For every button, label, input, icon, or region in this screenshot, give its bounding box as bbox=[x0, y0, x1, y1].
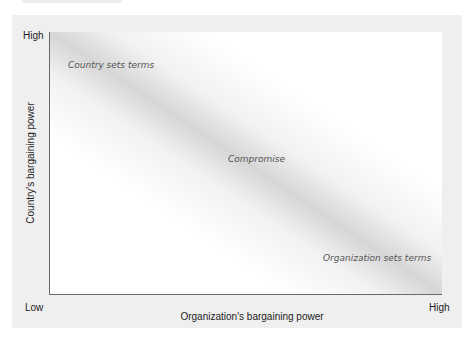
top-strip bbox=[22, 0, 122, 3]
x-axis-high-label: High bbox=[429, 302, 450, 313]
axis-low-label: Low bbox=[25, 302, 43, 313]
y-axis-high-label: High bbox=[23, 30, 44, 41]
y-axis-title: Country's bargaining power bbox=[25, 102, 36, 223]
region-compromise: Compromise bbox=[228, 154, 285, 164]
x-axis-title: Organization's bargaining power bbox=[180, 311, 323, 322]
region-organization-sets-terms: Organization sets terms bbox=[323, 253, 431, 263]
region-country-sets-terms: Country sets terms bbox=[68, 60, 154, 70]
